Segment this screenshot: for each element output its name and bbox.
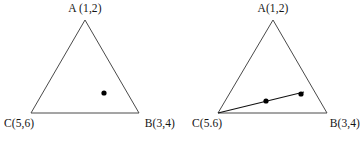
vertex-label-c: C(5.6) bbox=[192, 117, 262, 130]
figure-canvas: A (1,2) C(5,6) B(3,4) A(1,2) C(5.6) B(3,… bbox=[0, 0, 360, 142]
vertex-label-c: C(5,6) bbox=[4, 117, 74, 130]
interior-point-dot bbox=[101, 90, 106, 95]
vertex-label-b: B(3,4) bbox=[290, 117, 360, 130]
ray-from-c-line bbox=[218, 92, 304, 113]
segment-point-1-dot bbox=[263, 98, 268, 103]
vertex-label-b: B(3,4) bbox=[105, 117, 175, 130]
vertex-label-a: A(1,2) bbox=[223, 2, 323, 15]
triangle-outline bbox=[31, 20, 139, 113]
figure-panel-right: A(1,2) C(5.6) B(3,4) bbox=[180, 0, 360, 142]
figure-panel-left: A (1,2) C(5,6) B(3,4) bbox=[0, 0, 180, 142]
triangle-outline bbox=[218, 20, 327, 113]
vertex-label-a: A (1,2) bbox=[35, 2, 135, 15]
segment-point-2-dot bbox=[298, 91, 303, 96]
